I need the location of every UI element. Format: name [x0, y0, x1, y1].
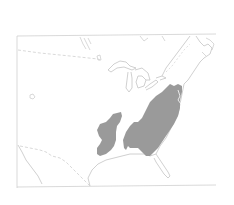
small-lake-west [30, 94, 35, 99]
map-frame [17, 34, 216, 188]
st-lawrence-dashed [166, 44, 190, 72]
us-canada-border [18, 50, 100, 60]
range-west [97, 112, 122, 156]
mexico-coast [18, 145, 42, 184]
florida-peninsula [150, 154, 170, 178]
northern-shore [140, 36, 165, 41]
northern-lake-lines [80, 37, 91, 50]
atlantic-coastline [162, 36, 212, 84]
maritime-coast [202, 38, 214, 56]
great-lakes [108, 61, 166, 92]
range-map [0, 0, 234, 205]
range-east [123, 84, 182, 156]
map-svg [0, 0, 234, 205]
gulf-coastline [88, 154, 150, 186]
